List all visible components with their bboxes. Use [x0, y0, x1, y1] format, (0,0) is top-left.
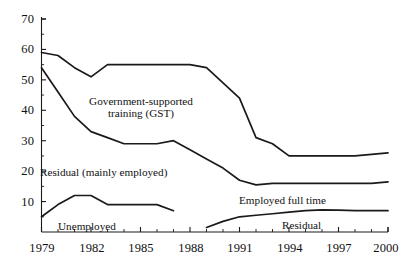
unemployed-label: Unemployed: [58, 220, 148, 232]
x-tick-label: 1991: [218, 242, 262, 255]
x-tick-label: 1988: [169, 242, 213, 255]
x-tick-label: 2000: [364, 242, 405, 255]
y-tick-label: 50: [8, 74, 34, 87]
y-tick-label: 70: [8, 13, 34, 26]
x-tick-label: 1985: [119, 242, 163, 255]
employed-full-time-label: Employed full time: [239, 194, 349, 206]
y-tick-label: 20: [8, 165, 34, 178]
gst-label: Government-supported training (GST): [78, 95, 204, 120]
residual-label: Residual: [282, 219, 342, 231]
y-tick-label: 30: [8, 135, 34, 148]
x-tick-label: 1979: [20, 242, 64, 255]
x-tick-label: 1982: [70, 242, 114, 255]
y-tick-label: 10: [8, 196, 34, 209]
line-chart: 70 60 50 40 30 20 10 1979 1982 1985 1988…: [0, 0, 405, 268]
y-tick-label: 40: [8, 104, 34, 117]
x-tick-label: 1994: [268, 242, 312, 255]
gst-label-line2: training (GST): [108, 107, 174, 119]
gst-label-line1: Government-supported: [89, 95, 193, 107]
residual-mainly-employed-label: Residual (mainly employed): [40, 166, 190, 178]
y-tick-label: 60: [8, 43, 34, 56]
series-line-2: [42, 195, 174, 216]
x-tick-label: 1997: [317, 242, 361, 255]
